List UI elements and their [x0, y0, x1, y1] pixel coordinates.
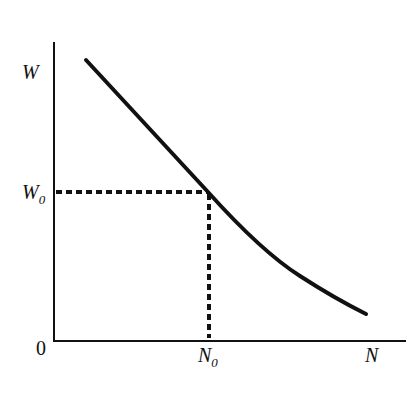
- y-axis-label: W: [22, 61, 41, 83]
- origin-label: 0: [36, 337, 46, 359]
- n0-label: N0: [197, 344, 218, 370]
- w0-label: W0: [22, 181, 46, 207]
- chart-canvas: W W0 0 N0 N: [0, 0, 414, 397]
- demand-curve: [86, 60, 366, 314]
- x-axis-label: N: [364, 344, 380, 366]
